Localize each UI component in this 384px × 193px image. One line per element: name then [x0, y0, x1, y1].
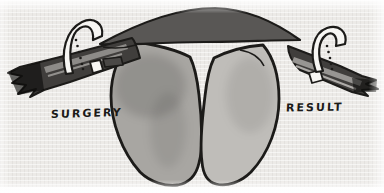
right-tube-segment — [288, 46, 378, 96]
uterus-right-horn — [201, 45, 279, 185]
left-severed-end — [8, 62, 44, 95]
right-horn-shading — [226, 57, 274, 133]
tubal-ligation-illustration — [0, 0, 384, 193]
left-clip-latch-tab — [103, 57, 123, 67]
illustration-canvas: SURGERY RESULT — [0, 0, 384, 193]
surgery-label: SURGERY — [51, 106, 123, 121]
left-horn-shading-lower — [150, 92, 186, 168]
result-label: RESULT — [286, 100, 344, 114]
paper-bottom-edge — [0, 187, 384, 193]
right-severed-end — [352, 78, 377, 92]
left-clip-foot — [90, 60, 103, 73]
